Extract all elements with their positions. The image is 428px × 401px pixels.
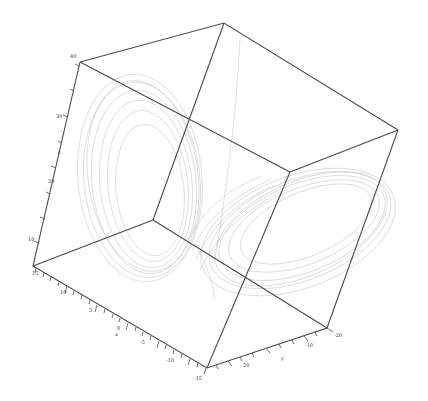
x-tick-minus-15: -15 bbox=[194, 375, 202, 381]
z-tick-40: 40 bbox=[70, 53, 76, 59]
x-tick-minus-10: -10 bbox=[166, 357, 174, 363]
x-tick-5: 5 bbox=[89, 307, 92, 313]
z-axis: 40 30 z 20 10 bbox=[28, 53, 79, 243]
x-tick-minus-5: -5 bbox=[140, 339, 145, 345]
x-axis: 15 10 5 0 x -5 -10 -15 bbox=[32, 268, 206, 381]
attractor-right-lobe bbox=[183, 143, 414, 321]
y-axis-label: y bbox=[280, 355, 284, 362]
y-axis: 20 y -10 -20 bbox=[216, 328, 342, 369]
y-tick-minus-10: -10 bbox=[305, 342, 313, 348]
z-axis-label: z bbox=[58, 149, 61, 155]
attractor-connectors bbox=[188, 40, 285, 300]
box-back-edges bbox=[33, 23, 327, 328]
z-tick-20: 20 bbox=[48, 178, 54, 184]
z-tick-10: 10 bbox=[28, 236, 34, 242]
z-tick-30: 30 bbox=[56, 113, 62, 119]
box-outline bbox=[33, 23, 398, 368]
x-tick-10: 10 bbox=[60, 289, 66, 295]
y-tick-minus-20: -20 bbox=[334, 332, 342, 338]
lorenz-3d-plot: 40 30 z 20 10 15 10 5 0 x -5 -1 bbox=[0, 0, 428, 401]
y-tick-20: 20 bbox=[243, 362, 249, 368]
x-tick-15: 15 bbox=[32, 270, 38, 276]
x-axis-label: x bbox=[115, 331, 118, 337]
attractor-left-lobe bbox=[69, 69, 211, 287]
